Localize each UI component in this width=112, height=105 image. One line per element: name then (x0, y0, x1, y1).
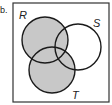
venn-diagram: R S T (0, 0, 112, 105)
set-s-label: S (93, 17, 101, 29)
set-r-label: R (19, 9, 27, 21)
